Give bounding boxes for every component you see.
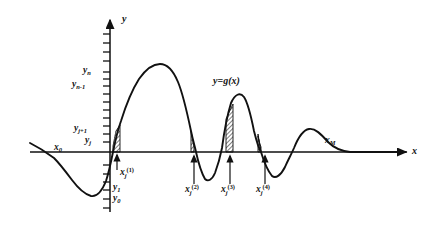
xtick-label-x-j-4: xj(4) <box>256 184 270 196</box>
y-axis-name: y <box>122 14 126 24</box>
curve-equation-label: y=g(x) <box>213 76 240 86</box>
curve-label-rhs: g(x) <box>223 75 240 86</box>
ytick-label-y-j: yj <box>85 136 91 147</box>
x-axis-name: x <box>412 146 417 156</box>
plot-svg <box>0 0 428 230</box>
ytick-label-y-1: y1 <box>113 183 120 194</box>
ytick-sub: n-1 <box>76 83 85 90</box>
ytick-sub: n <box>87 69 91 76</box>
xtick-label-x-M: xM <box>325 136 336 147</box>
xtick-sup: (3) <box>228 183 235 190</box>
ytick-sub: j+1 <box>78 127 87 134</box>
xtick-label-x-j-2: xj(2) <box>185 184 199 196</box>
root-arrows <box>117 155 265 184</box>
xtick-sup: (2) <box>192 183 199 190</box>
ytick-sub: j <box>89 139 91 146</box>
xtick-sup: (1) <box>127 166 134 173</box>
ytick-sub: 0 <box>117 197 120 204</box>
xtick-sup: (4) <box>263 183 270 190</box>
xtick-label-x-j-3: xj(3) <box>221 184 235 196</box>
ytick-label-y-0: y0 <box>113 194 120 205</box>
xtick-sub: 0 <box>59 146 62 153</box>
xtick-label-x-j-1: xj(1) <box>120 167 134 179</box>
ytick-label-y-n: yn <box>83 66 91 77</box>
ytick-label-y-j-plus-1: yj+1 <box>74 124 87 135</box>
figure-canvas: y x y=g(x) yn yn-1 yj+1 yj y1 y0 x0 xj(1… <box>0 0 428 230</box>
ytick-label-y-n-minus-1: yn-1 <box>72 80 85 91</box>
xtick-label-x-0: x0 <box>54 143 62 154</box>
xtick-sub: M <box>330 139 336 146</box>
ytick-sub: 1 <box>117 186 120 193</box>
